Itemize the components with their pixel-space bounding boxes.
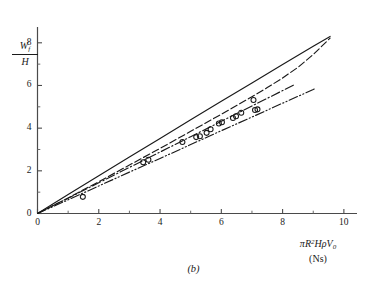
y-tick-label: 4 (12, 123, 32, 133)
axis-ticks (38, 43, 344, 214)
axis-lines (37, 27, 357, 214)
y-tick-label: 6 (12, 80, 32, 90)
x-tick-label: 6 (209, 218, 233, 228)
data-point-marker (251, 97, 256, 102)
data-curves (38, 36, 331, 213)
data-point-marker (80, 194, 85, 199)
curve-solid-curve (38, 36, 331, 213)
data-point-marker (208, 127, 213, 132)
x-tick-label: 2 (87, 218, 111, 228)
curve-dashed-curve (38, 38, 331, 213)
x-tick-label: 10 (332, 218, 356, 228)
data-points (80, 97, 260, 199)
figure-caption: (b) (0, 263, 387, 274)
curve-dash-dot-curve (38, 84, 295, 213)
x-axis-label-H: H (314, 238, 321, 249)
x-axis-label-expression: πR2HρV0 (272, 238, 364, 251)
x-tick-label: 0 (26, 218, 50, 228)
x-tick-label: 4 (148, 218, 172, 228)
x-axis-label-V-subscript: 0 (333, 243, 337, 251)
y-tick-label: 0 (12, 209, 32, 219)
figure-panel-b: Wf H πR2HρV0 (Ns) (b) 024681002468 (0, 0, 387, 285)
y-axis-label-denominator: H (12, 55, 38, 67)
x-axis-label: πR2HρV0 (Ns) (272, 238, 364, 264)
curve-dash-dot-dot-curve (38, 88, 317, 213)
x-tick-label: 8 (271, 218, 295, 228)
y-tick-label: 8 (12, 38, 32, 48)
y-tick-label: 2 (12, 166, 32, 176)
data-point-marker (141, 160, 146, 165)
